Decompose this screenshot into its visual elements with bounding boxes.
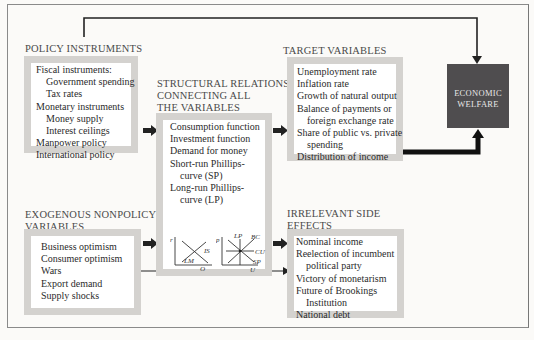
svg-text:SP: SP [253,258,262,266]
economic-welfare-box: ECONOMIC WELFARE [447,64,509,128]
list-item: Reelection of incumbent [296,248,394,260]
svg-text:LP: LP [233,232,243,240]
svg-text:r: r [170,236,173,244]
list-item: Institution [296,297,394,309]
list-item: National debt [296,309,394,321]
policy-instruments-heading: POLICY INSTRUMENTS [25,43,142,55]
list-item: Growth of natural output [297,90,402,102]
policy-instruments-list: Fiscal instruments: Government spending … [36,64,135,162]
exogenous-box: Business optimism Consumer optimism Wars… [24,229,141,315]
list-item: Inflation rate [297,78,402,90]
economic-welfare-label-line1: ECONOMIC [447,88,509,98]
list-item: Future of Brookings [296,285,394,297]
exogenous-list: Business optimism Consumer optimism Wars… [41,241,122,302]
svg-text:Q: Q [200,265,205,271]
svg-text:CU: CU [255,248,266,256]
target-variables-box: Unemployment rate Inflation rate Growth … [287,57,403,161]
list-item: Victory of monetarism [296,273,394,285]
is-lm-graph: r LM IS Q [170,235,216,271]
list-item: Interest ceilings [36,125,135,137]
list-item: Tax rates [36,88,135,100]
svg-text:U: U [250,266,256,273]
list-item: Distribution of income [297,151,402,163]
svg-text:p: p [216,236,220,244]
policy-instruments-box: Fiscal instruments: Government spending … [24,56,138,153]
phillips-curve-graph: p LP BC CU SP U [216,231,268,273]
structural-relations-list: Consumption function Investment function… [170,121,260,206]
list-item: Unemployment rate [297,66,402,78]
list-item: Monetary instruments [36,101,135,113]
list-item: Money supply [36,113,135,125]
svg-text:LM: LM [183,257,195,265]
list-item: Business optimism [41,241,122,253]
list-item: Investment function [170,133,260,145]
list-item: International policy [36,149,135,161]
list-item: Nominal income [296,236,394,248]
list-item: curve (SP) [170,170,260,182]
list-item: Demand for money [170,145,260,157]
list-item: Fiscal instruments: [36,64,135,76]
irrelevant-box: Nominal income Reelection of incumbent p… [287,229,404,318]
list-item: spending [297,139,402,151]
list-item: Manpower policy [36,137,135,149]
structural-relations-box: Consumption function Investment function… [156,113,272,276]
list-item: Supply shocks [41,290,122,302]
list-item: Wars [41,265,122,277]
list-item: political party [296,260,394,272]
economic-welfare-label-line2: WELFARE [447,99,509,109]
list-item: Export demand [41,278,122,290]
list-item: Government spending [36,76,135,88]
irrelevant-list: Nominal income Reelection of incumbent p… [296,236,394,321]
target-variables-list: Unemployment rate Inflation rate Growth … [297,66,402,164]
list-item: Long-run Phillips- [170,182,260,194]
list-item: Consumption function [170,121,260,133]
list-item: Share of public vs. private [297,127,402,139]
list-item: foreign exchange rate [297,115,402,127]
list-item: curve (LP) [170,194,260,206]
structural-relations-heading: STRUCTURAL RELATIONS CONNECTING ALL THE … [157,78,289,114]
list-item: Consumer optimism [41,253,122,265]
svg-text:IS: IS [203,247,210,255]
svg-text:BC: BC [251,233,260,241]
list-item: Short-run Phillips- [170,158,260,170]
target-variables-heading: TARGET VARIABLES [283,45,387,57]
list-item: Balance of payments or [297,103,402,115]
